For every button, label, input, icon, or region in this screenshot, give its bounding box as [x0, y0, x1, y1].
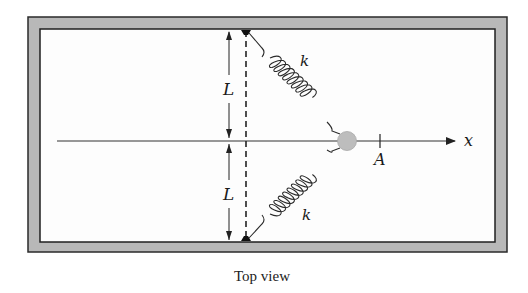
x-axis-label: x: [464, 131, 473, 150]
length-label-upper: L: [222, 79, 234, 99]
mass: [338, 132, 357, 151]
top-view-diagram: x L L k k A Top: [0, 0, 528, 293]
frame-inner: [40, 29, 495, 242]
spring-constant-label-lower: k: [302, 206, 311, 224]
spring-constant-label-upper: k: [300, 52, 309, 70]
caption: Top view: [234, 268, 290, 284]
length-label-lower: L: [222, 184, 234, 204]
frame: [28, 17, 507, 252]
amplitude-label: A: [372, 150, 386, 169]
